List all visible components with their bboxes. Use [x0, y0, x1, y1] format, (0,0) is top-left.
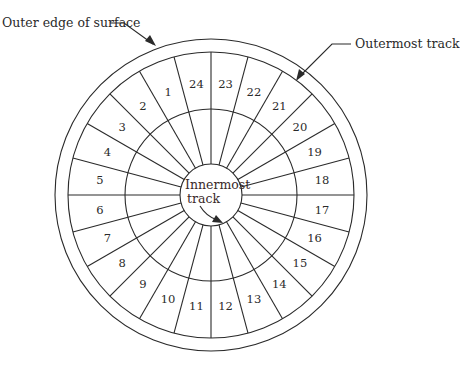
- sector-divider-line: [87, 211, 184, 267]
- sector-label-5: 5: [96, 173, 103, 187]
- sector-label-23: 23: [218, 77, 233, 91]
- sector-divider-line: [73, 203, 181, 232]
- sector-divider-line: [241, 203, 349, 232]
- sector-label-12: 12: [218, 299, 233, 313]
- sector-label-6: 6: [96, 203, 103, 217]
- sector-label-2: 2: [139, 99, 146, 113]
- sector-label-21: 21: [272, 99, 287, 113]
- innermost-label-line1: Innermost: [185, 177, 250, 192]
- sector-label-1: 1: [164, 85, 171, 99]
- sector-divider-line: [87, 124, 184, 180]
- innermost-label-line2: track: [187, 191, 220, 206]
- sector-label-14: 14: [272, 277, 287, 291]
- sector-label-9: 9: [139, 277, 146, 291]
- outermost-track-arrowhead-icon: [296, 69, 305, 81]
- sector-label-24: 24: [189, 77, 204, 91]
- sector-label-22: 22: [247, 85, 262, 99]
- sector-label-13: 13: [247, 292, 262, 306]
- disk-diagram: 123456789101112131415161718192021222324 …: [0, 0, 460, 374]
- sector-divider-line: [241, 158, 349, 187]
- sector-label-10: 10: [161, 292, 176, 306]
- disk-diagram-svg: 123456789101112131415161718192021222324 …: [0, 0, 460, 374]
- sector-label-4: 4: [104, 145, 111, 159]
- sector-label-20: 20: [293, 120, 308, 134]
- outermost-track-callout: Outermost track: [296, 36, 460, 81]
- sector-label-17: 17: [315, 203, 330, 217]
- sector-label-11: 11: [189, 299, 204, 313]
- sector-label-15: 15: [293, 256, 308, 270]
- sector-label-3: 3: [118, 120, 125, 134]
- sector-divider-line: [174, 57, 203, 165]
- sector-label-16: 16: [307, 231, 322, 245]
- outermost-track-label: Outermost track: [355, 36, 460, 51]
- innermost-track-callout: Innermost track: [185, 177, 250, 223]
- sector-label-7: 7: [104, 231, 111, 245]
- outer-edge-arrowhead-icon: [145, 35, 156, 46]
- sector-label-18: 18: [315, 173, 330, 187]
- sector-divider-line: [174, 225, 203, 333]
- outermost-track-leader-line: [300, 44, 351, 76]
- sector-label-8: 8: [118, 256, 125, 270]
- sector-divider-line: [219, 225, 248, 333]
- sector-divider-line: [73, 158, 181, 187]
- sector-divider-line: [219, 57, 248, 165]
- outer-edge-callout: Outer edge of surface: [2, 15, 156, 46]
- sector-label-19: 19: [307, 145, 322, 159]
